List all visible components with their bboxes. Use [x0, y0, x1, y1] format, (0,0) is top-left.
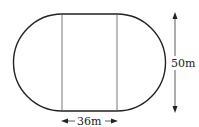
- stadium-diagram: 50m 36m: [0, 0, 199, 127]
- diagram: 50m 36m: [0, 0, 199, 127]
- height-dimension: 50m: [169, 12, 197, 113]
- height-label: 50m: [171, 57, 196, 70]
- width-label: 36m: [77, 115, 102, 127]
- width-dimension: 36m: [61, 114, 118, 127]
- stadium-outline: [13, 14, 165, 111]
